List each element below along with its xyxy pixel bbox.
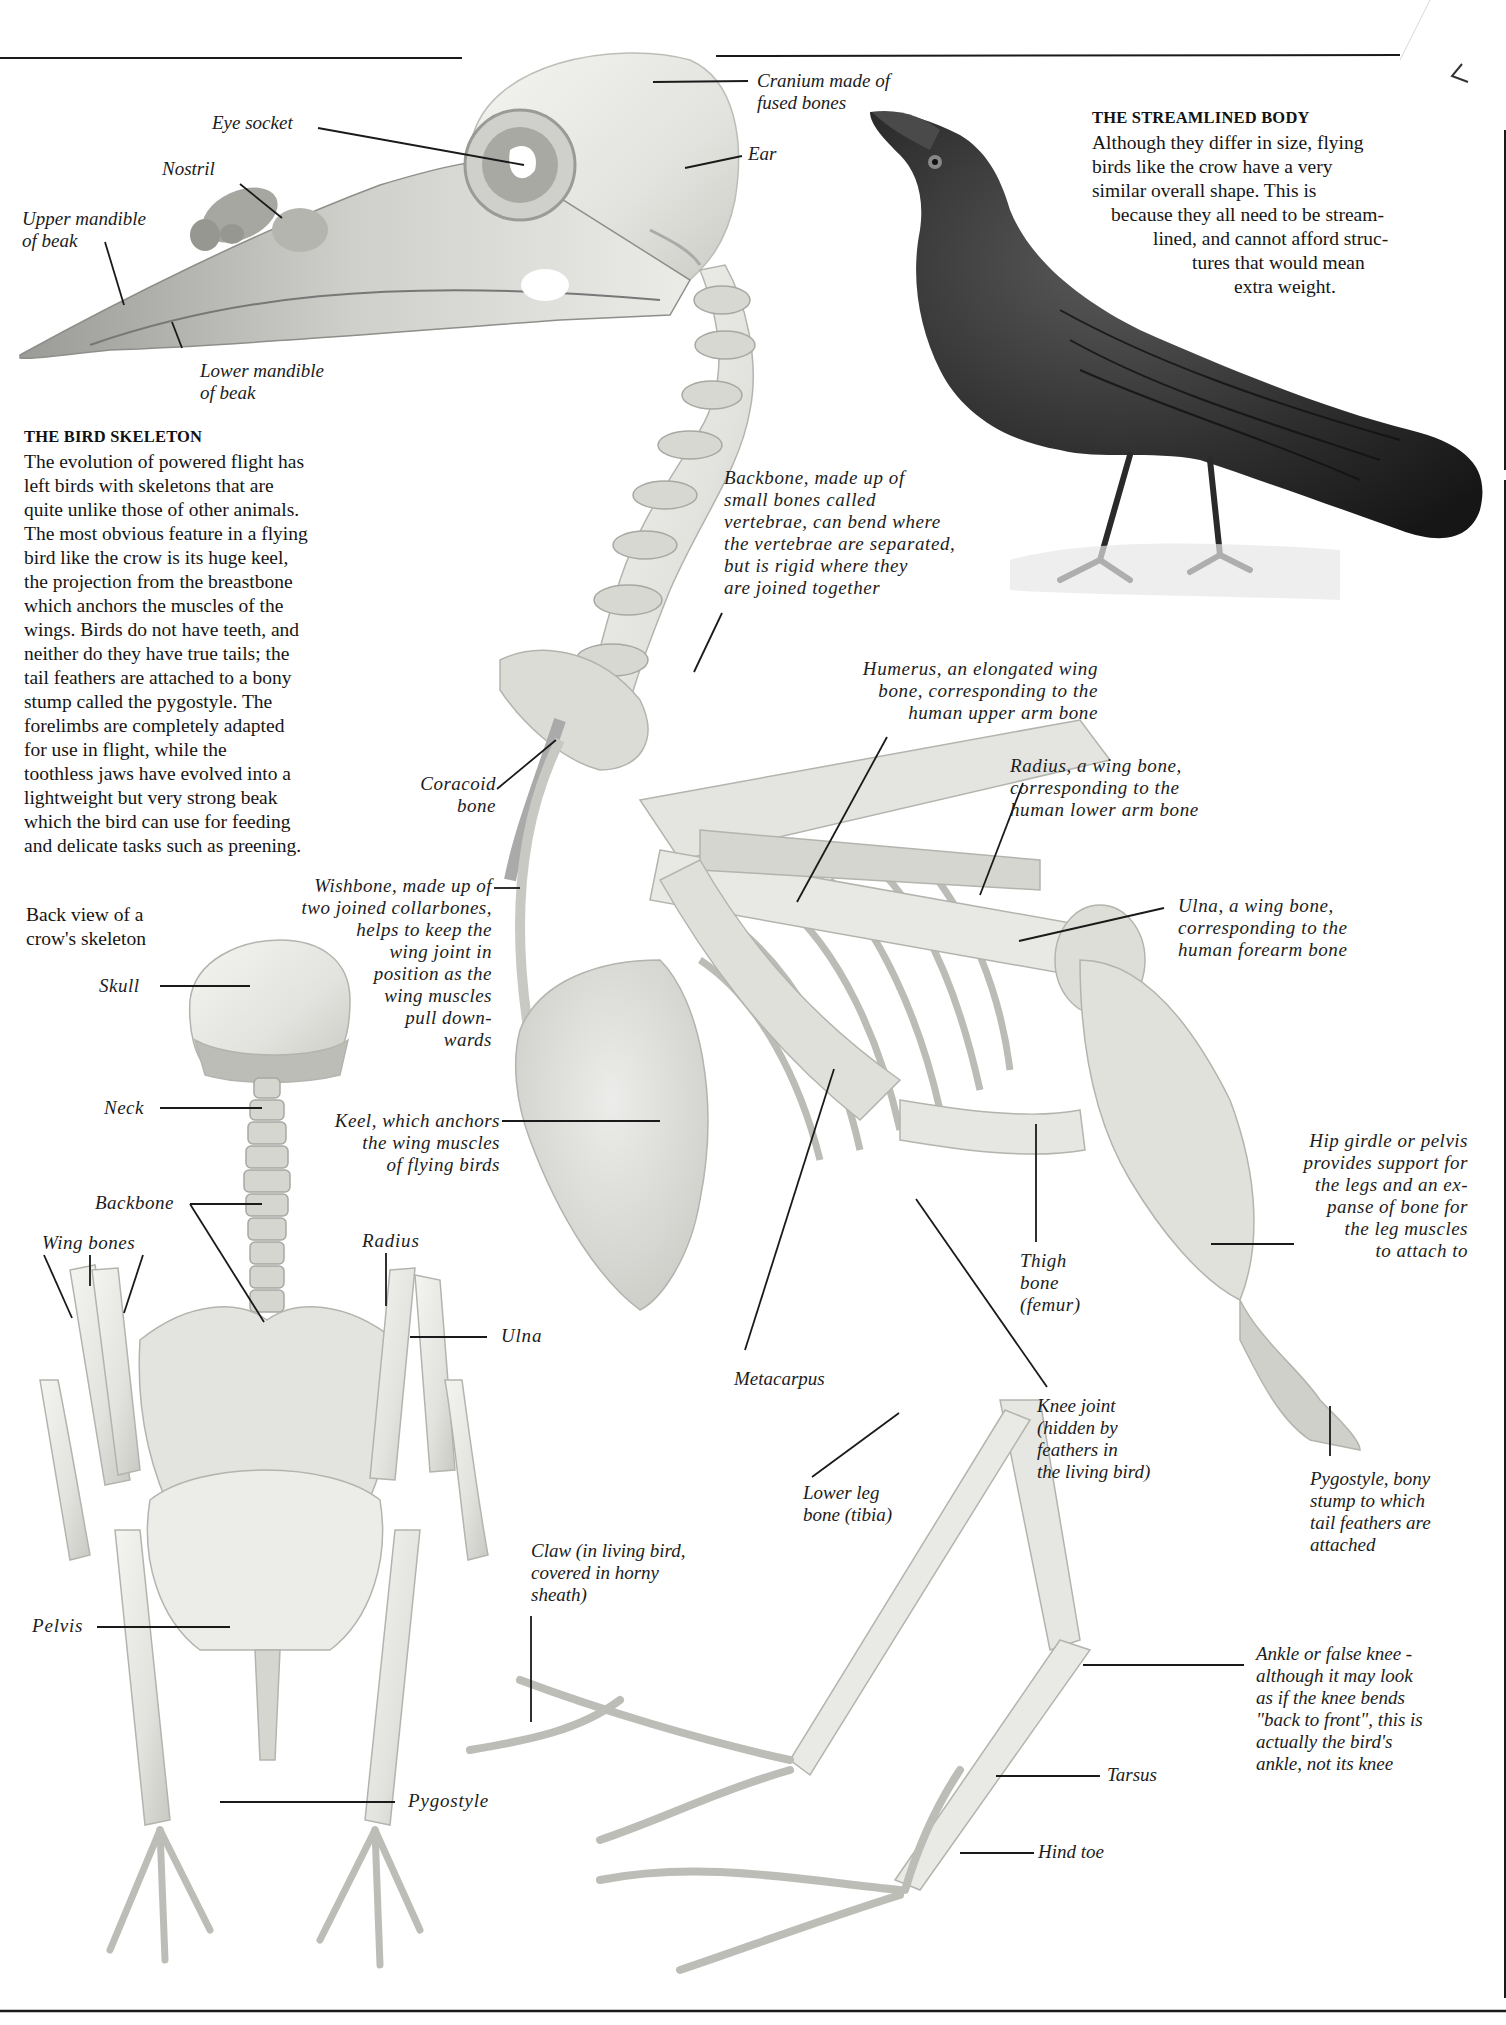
label-hind-toe: Hind toe	[1038, 1841, 1104, 1863]
label-claw: Claw (in living bird, covered in horny s…	[531, 1540, 685, 1606]
label-back-pygostyle: Pygostyle	[408, 1790, 489, 1812]
text-line: and delicate tasks such as preening.	[24, 834, 364, 858]
label-back-skull: Skull	[99, 975, 140, 997]
label-back-radius: Radius	[362, 1230, 420, 1252]
text-line: lightweight but very strong beak	[24, 786, 364, 810]
text-line: which the bird can use for feeding	[24, 810, 364, 834]
book-page: THE STREAMLINED BODY Although they diffe…	[0, 0, 1506, 2025]
bird-skeleton-text: The evolution of powered flight has left…	[24, 450, 364, 858]
label-lower-mandible: Lower mandible of beak	[200, 360, 324, 404]
label-nostril: Nostril	[162, 158, 215, 180]
label-keel: Keel, which anchors the wing muscles of …	[290, 1110, 500, 1176]
label-eye-socket: Eye socket	[212, 112, 293, 134]
text-line: The evolution of powered flight has	[24, 450, 364, 474]
label-wishbone: Wishbone, made up of two joined collarbo…	[260, 875, 492, 1051]
text-line: for use in flight, while the	[24, 738, 364, 762]
label-metacarpus: Metacarpus	[734, 1368, 825, 1390]
text-line: birds like the crow have a very	[1092, 155, 1422, 179]
label-upper-mandible: Upper mandible of beak	[22, 208, 146, 252]
label-back-pelvis: Pelvis	[32, 1615, 83, 1637]
label-ear: Ear	[748, 143, 777, 165]
text-line: lined, and cannot afford struc-	[1092, 227, 1422, 251]
label-radius: Radius, a wing bone, corresponding to th…	[1010, 755, 1290, 821]
label-ulna: Ulna, a wing bone, corresponding to the …	[1178, 895, 1348, 961]
text-line: neither do they have true tails; the	[24, 642, 364, 666]
text-line: toothless jaws have evolved into a	[24, 762, 364, 786]
text-line: The most obvious feature in a flying	[24, 522, 364, 546]
streamlined-body-heading: THE STREAMLINED BODY	[1092, 108, 1310, 128]
back-view-caption: Back view of a crow's skeleton	[26, 903, 146, 951]
label-knee-joint: Knee joint (hidden by feathers in the li…	[1037, 1395, 1150, 1483]
text-line: bird like the crow is its huge keel,	[24, 546, 364, 570]
text-line: which anchors the muscles of the	[24, 594, 364, 618]
label-hip-girdle: Hip girdle or pelvis provides support fo…	[1260, 1130, 1468, 1262]
label-back-ulna: Ulna	[501, 1325, 542, 1347]
label-thigh-bone: Thigh bone (femur)	[1020, 1250, 1080, 1316]
label-humerus: Humerus, an elongated wing bone, corresp…	[780, 658, 1098, 724]
text-line: stump called the pygostyle. The	[24, 690, 364, 714]
label-back-wing-bones: Wing bones	[42, 1232, 135, 1254]
label-coracoid: Coracoid bone	[400, 773, 496, 817]
corner-mark-icon	[1452, 64, 1468, 82]
bird-skeleton-heading: THE BIRD SKELETON	[24, 427, 202, 447]
streamlined-body-text: Although they differ in size, flying bir…	[1092, 131, 1422, 299]
text-line: tures that would mean	[1092, 251, 1422, 275]
label-back-backbone: Backbone	[95, 1192, 174, 1214]
label-pygostyle-side: Pygostyle, bony stump to which tail feat…	[1310, 1468, 1431, 1556]
text-line: left birds with skeletons that are	[24, 474, 364, 498]
text-line: wings. Birds do not have teeth, and	[24, 618, 364, 642]
text-line: extra weight.	[1092, 275, 1422, 299]
text-line: tail feathers are attached to a bony	[24, 666, 364, 690]
text-line: forelimbs are completely adapted	[24, 714, 364, 738]
text-line: because they all need to be stream-	[1092, 203, 1422, 227]
label-lower-leg: Lower leg bone (tibia)	[803, 1482, 892, 1526]
label-cranium: Cranium made of fused bones	[757, 70, 890, 114]
text-line: Although they differ in size, flying	[1092, 131, 1422, 155]
label-back-neck: Neck	[104, 1097, 144, 1119]
label-ankle: Ankle or false knee - although it may lo…	[1256, 1643, 1423, 1775]
text-line: the projection from the breastbone	[24, 570, 364, 594]
text-line: similar overall shape. This is	[1092, 179, 1422, 203]
skull-illustration	[20, 53, 739, 359]
label-backbone: Backbone, made up of small bones called …	[724, 467, 955, 599]
label-tarsus: Tarsus	[1107, 1764, 1157, 1786]
text-line: quite unlike those of other animals.	[24, 498, 364, 522]
